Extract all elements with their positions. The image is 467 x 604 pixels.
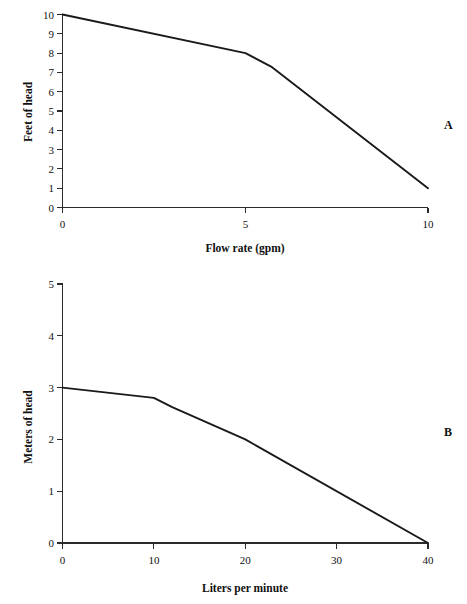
chart-a-ytick-8: 8: [49, 47, 55, 59]
chart-a-ytick-1: 1: [49, 182, 55, 194]
chart-a-xtick-5: 5: [243, 218, 249, 230]
chart-a-x-axis-title: Flow rate (gpm): [205, 242, 284, 255]
chart-b-xtick-30: 30: [331, 554, 343, 566]
chart-b-ytick-2: 2: [49, 433, 55, 445]
chart-a-x-ticks: [63, 208, 429, 214]
chart-a-ytick-0: 0: [49, 202, 55, 214]
chart-a-ytick-4: 4: [49, 124, 55, 136]
chart-a-xtick-10: 10: [423, 218, 435, 230]
panel-letter-b: B: [444, 425, 452, 440]
chart-a-data-line: [63, 15, 429, 189]
chart-a-ytick-2: 2: [49, 163, 55, 175]
chart-b-x-tick-labels: 0 10 20 30 40: [60, 554, 434, 566]
chart-a-svg: 0 1 2 3 4 5 6 7 8 9 10 0 5: [0, 0, 467, 262]
chart-b-xtick-40: 40: [423, 554, 435, 566]
chart-b-x-axis-title: Liters per minute: [202, 582, 288, 595]
chart-panel-a: 0 1 2 3 4 5 6 7 8 9 10 0 5: [0, 0, 467, 262]
chart-b-ytick-1: 1: [49, 485, 55, 497]
chart-b-xtick-20: 20: [240, 554, 252, 566]
chart-b-xtick-10: 10: [148, 554, 160, 566]
chart-b-ytick-3: 3: [49, 382, 55, 394]
pump-curve-figure: 0 1 2 3 4 5 6 7 8 9 10 0 5: [0, 0, 467, 604]
chart-b-ytick-0: 0: [49, 537, 55, 549]
chart-b-x-ticks: [63, 543, 429, 549]
chart-b-y-tick-labels: 0 1 2 3 4 5: [49, 278, 55, 549]
chart-a-y-ticks: [57, 15, 63, 208]
chart-b-y-axis-title: Meters of head: [22, 390, 34, 464]
chart-a-ytick-10: 10: [43, 9, 55, 21]
panel-letter-a: A: [444, 118, 453, 133]
chart-a-y-tick-labels: 0 1 2 3 4 5 6 7 8 9 10: [43, 9, 55, 214]
chart-a-ytick-9: 9: [49, 28, 55, 40]
chart-a-ytick-5: 5: [49, 105, 55, 117]
chart-a-ytick-7: 7: [49, 66, 55, 78]
chart-b-data-line: [63, 388, 429, 543]
chart-b-xtick-0: 0: [60, 554, 66, 566]
chart-b-ytick-4: 4: [49, 330, 55, 342]
chart-a-ytick-6: 6: [49, 86, 55, 98]
chart-a-ytick-3: 3: [49, 144, 55, 156]
chart-b-ytick-5: 5: [49, 278, 55, 290]
chart-panel-b: 0 1 2 3 4 5 0 10 20 30 40: [0, 262, 467, 604]
chart-b-svg: 0 1 2 3 4 5 0 10 20 30 40: [0, 262, 467, 604]
chart-b-y-ticks: [57, 284, 63, 543]
chart-a-x-tick-labels: 0 5 10: [60, 218, 434, 230]
chart-a-y-axis-title: Feet of head: [22, 81, 34, 142]
chart-a-xtick-0: 0: [60, 218, 66, 230]
